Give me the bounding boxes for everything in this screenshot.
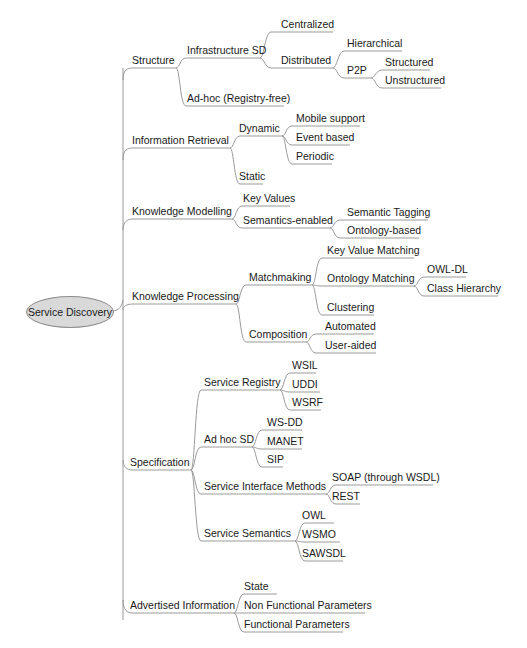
node-information-retrieval: Information Retrieval (130, 134, 231, 147)
node-p2p: P2P (345, 64, 369, 77)
node-semantics-enabled: Semantics-enabled (241, 214, 335, 227)
node-manet: MANET (265, 435, 306, 448)
node-functional-parameters: Functional Parameters (242, 618, 352, 631)
node-hierarchical: Hierarchical (345, 37, 404, 50)
node-automated: Automated (323, 320, 378, 333)
node-knowledge-processing: Knowledge Processing (130, 290, 241, 303)
node-dynamic: Dynamic (237, 122, 282, 135)
node-rest: REST (330, 490, 362, 503)
node-key-value-matching: Key Value Matching (325, 244, 422, 257)
node-service-registry: Service Registry (202, 376, 282, 389)
mind-map-canvas: Service Discovery Structure Infrastructu… (0, 0, 527, 648)
node-owl-dl: OWL-DL (425, 263, 470, 276)
node-service-semantics: Service Semantics (202, 527, 293, 540)
node-specification: Specification (128, 456, 192, 469)
root-label: Service Discovery (28, 306, 112, 318)
node-matchmaking: Matchmaking (247, 271, 313, 284)
node-ws-dd: WS-DD (265, 416, 305, 429)
node-distributed: Distributed (279, 54, 333, 67)
node-uddi: UDDI (290, 378, 320, 391)
node-non-functional-parameters: Non Functional Parameters (242, 599, 374, 612)
node-key-values: Key Values (241, 192, 297, 205)
node-adhoc-sd: Ad hoc SD (202, 433, 256, 446)
node-state: State (242, 580, 271, 593)
node-wsil: WSIL (290, 359, 320, 372)
node-ontology-based: Ontology-based (345, 224, 423, 237)
node-owl: OWL (300, 509, 328, 522)
node-composition: Composition (247, 328, 309, 341)
node-centralized: Centralized (279, 18, 336, 31)
node-clustering: Clustering (325, 301, 376, 314)
node-static: Static (237, 170, 267, 183)
node-infrastructure-sd: Infrastructure SD (185, 44, 268, 57)
node-sip: SIP (265, 453, 286, 466)
node-wsrf: WSRF (290, 396, 325, 409)
node-event-based: Event based (294, 131, 356, 144)
node-periodic: Periodic (294, 150, 336, 163)
node-mobile-support: Mobile support (294, 112, 367, 125)
node-knowledge-modelling: Knowledge Modelling (130, 205, 234, 218)
node-wsmo: WSMO (300, 528, 338, 541)
node-user-aided: User-aided (323, 339, 378, 352)
node-ontology-matching: Ontology Matching (325, 272, 417, 285)
node-soap: SOAP (through WSDL) (330, 471, 442, 484)
node-unstructured: Unstructured (383, 74, 447, 87)
node-service-interface-methods: Service Interface Methods (202, 480, 328, 493)
node-structure: Structure (130, 54, 177, 67)
root-node-service-discovery: Service Discovery (26, 296, 114, 328)
node-advertised-information: Advertised Information (128, 599, 237, 612)
node-structured: Structured (383, 56, 435, 69)
node-sawsdl: SAWSDL (300, 547, 348, 560)
node-class-hierarchy: Class Hierarchy (425, 282, 503, 295)
node-semantic-tagging: Semantic Tagging (345, 206, 432, 219)
node-adhoc-registry-free: Ad-hoc (Registry-free) (185, 92, 292, 105)
